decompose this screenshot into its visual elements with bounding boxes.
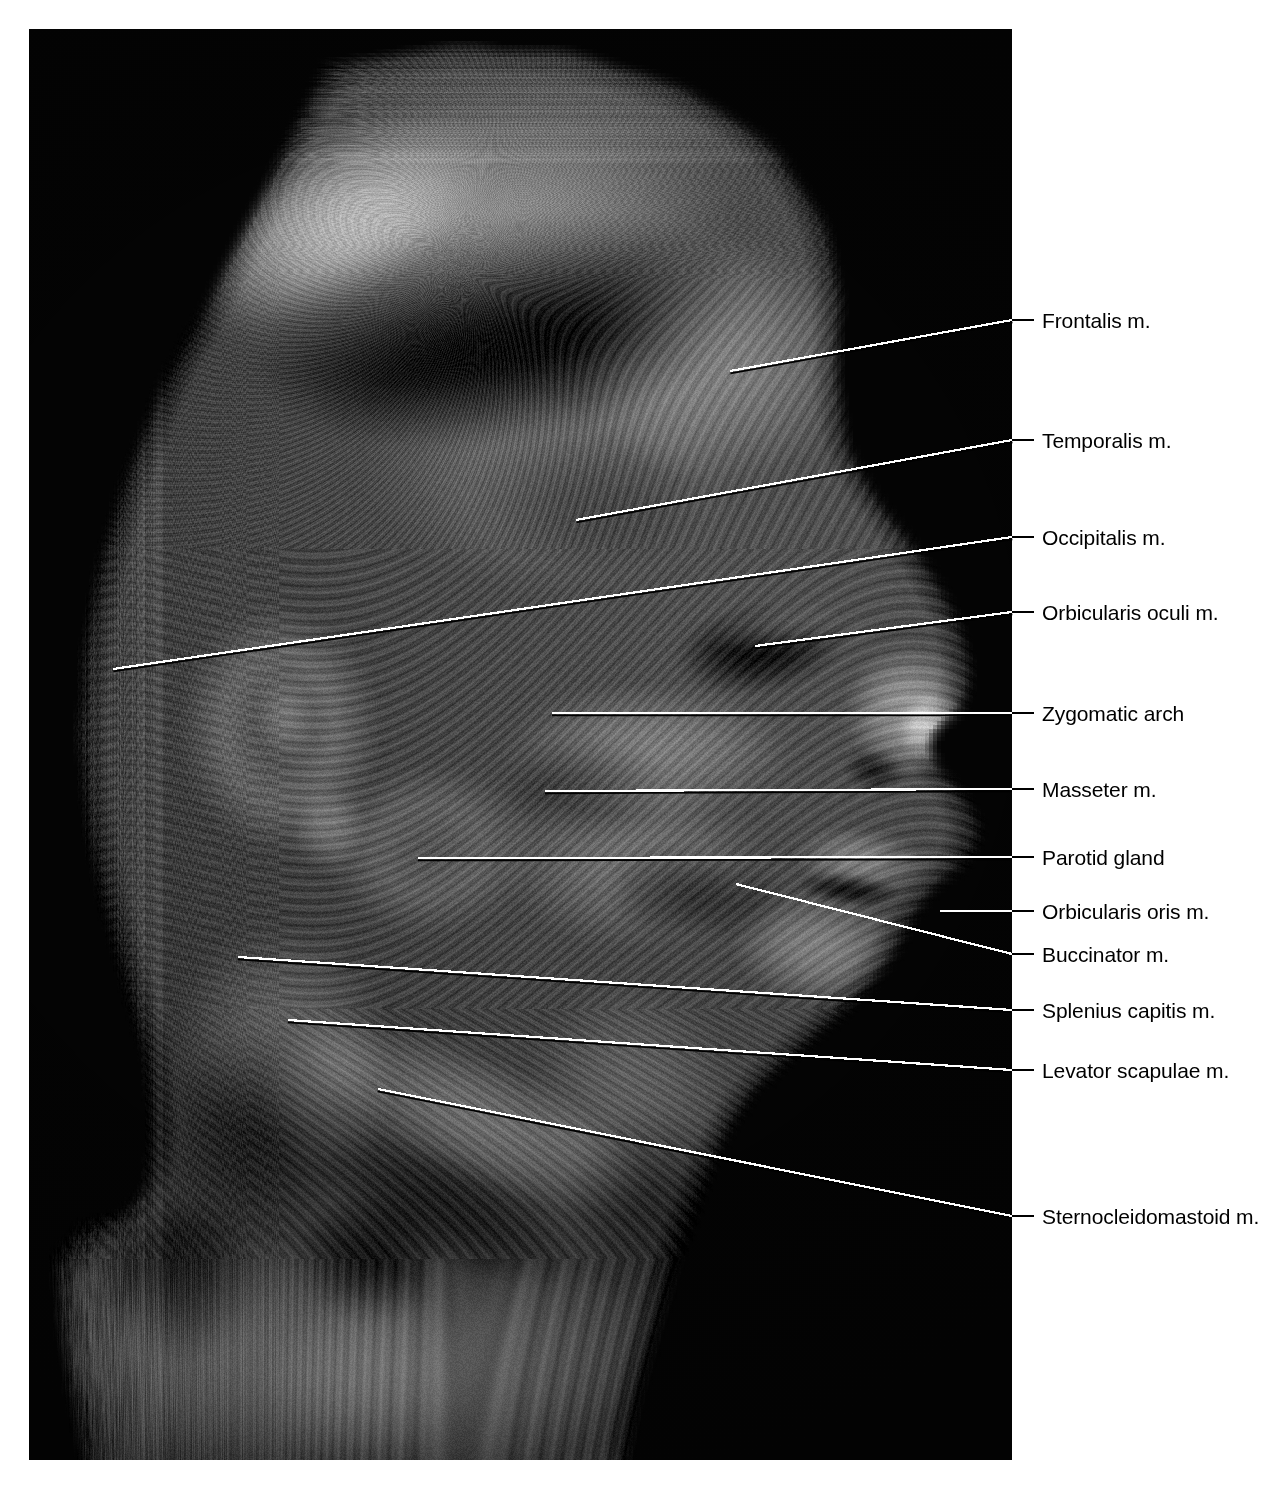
label-frontalis: Frontalis m. [1042,310,1151,331]
label-masseter: Masseter m. [1042,779,1156,800]
label-sternocleidomastoid: Sternocleidomastoid m. [1042,1206,1259,1227]
label-orbicularis-oculi: Orbicularis oculi m. [1042,602,1219,623]
label-temporalis: Temporalis m. [1042,430,1171,451]
label-zygomatic-arch: Zygomatic arch [1042,703,1184,724]
label-occipitalis: Occipitalis m. [1042,527,1165,548]
anatomy-plate: Frontalis m.Temporalis m.Occipitalis m.O… [0,0,1287,1489]
dissection-photograph [29,29,1012,1460]
label-splenius-capitis: Splenius capitis m. [1042,1000,1215,1021]
label-buccinator: Buccinator m. [1042,944,1169,965]
dissection-photo-canvas [29,29,1012,1460]
label-parotid-gland: Parotid gland [1042,847,1164,868]
label-orbicularis-oris: Orbicularis oris m. [1042,901,1209,922]
label-levator-scapulae: Levator scapulae m. [1042,1060,1229,1081]
